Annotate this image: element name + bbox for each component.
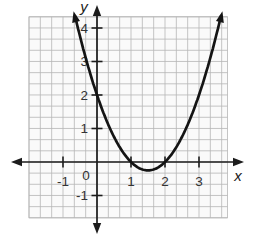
x-axis-arrow-right-icon [233, 158, 244, 166]
y-axis-arrow-down-icon [93, 223, 101, 234]
quadratic-function-plot: -11234321-10xy [0, 0, 258, 249]
x-axis-label: x [233, 167, 242, 184]
origin-label: 0 [82, 168, 90, 183]
y-tick-label: 4 [80, 21, 88, 36]
y-axis-arrow-up-icon [93, 5, 101, 16]
x-tick-label: 2 [161, 174, 169, 189]
y-tick-label: 2 [80, 88, 88, 103]
y-tick-label: -1 [76, 188, 88, 203]
x-axis-arrow-left-icon [11, 158, 22, 166]
x-tick-label: -1 [57, 174, 69, 189]
y-tick-label: 1 [80, 121, 88, 136]
y-axis-label: y [79, 0, 89, 15]
x-tick-label: 1 [127, 174, 135, 189]
graph-figure: -11234321-10xy [0, 0, 258, 249]
x-tick-label: 3 [195, 174, 203, 189]
